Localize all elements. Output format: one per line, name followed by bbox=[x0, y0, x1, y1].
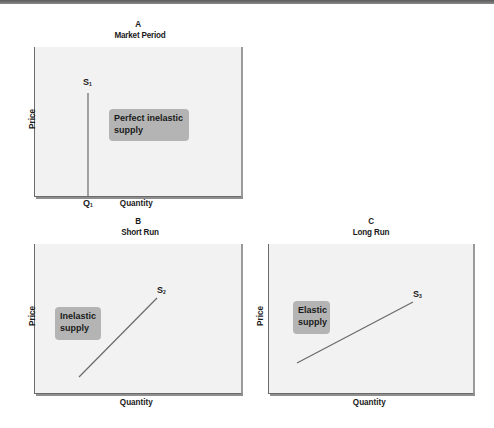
supply-curve-s3 bbox=[297, 302, 413, 363]
supply-curve-s2 bbox=[79, 298, 157, 377]
supply-curves bbox=[0, 0, 494, 428]
